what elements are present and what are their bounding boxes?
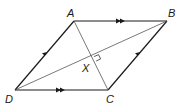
double-arrow-ab [116,19,125,24]
double-arrow-dc [56,88,65,93]
label-b: B [168,7,175,19]
right-angle-marker [94,55,101,61]
label-d: D [5,93,13,105]
label-a: A [66,7,74,19]
label-x: X [81,62,90,74]
label-c: C [106,93,114,105]
diagonal-db [15,21,167,90]
parallelogram-diagram: A B C D X [0,0,188,107]
